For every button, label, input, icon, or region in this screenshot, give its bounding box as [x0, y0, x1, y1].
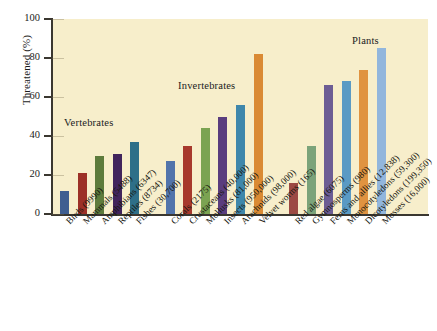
- threatened-species-bar-chart: Threatened (%) 020406080100 VertebratesI…: [0, 0, 437, 331]
- x-axis-tick-labels: Birds (9990)Mammals (5488)Amphibians (63…: [0, 0, 437, 331]
